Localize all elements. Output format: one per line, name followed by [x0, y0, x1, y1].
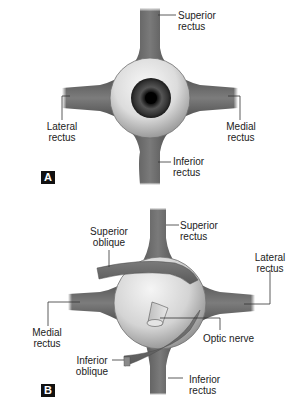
lateral-rectus-muscle-a [62, 80, 114, 116]
label-line: rectus [28, 338, 66, 349]
label-line: Superior [178, 10, 216, 21]
label-line: Inferior [173, 156, 204, 167]
figure-svg [0, 0, 300, 412]
superior-rectus-muscle-a [132, 8, 168, 65]
label-a-medial-rectus: Medial rectus [222, 121, 260, 143]
label-line: rectus [180, 231, 218, 242]
label-b-inferior-rectus: Inferior rectus [189, 374, 220, 396]
label-b-superior-rectus: Superior rectus [180, 220, 218, 242]
label-line: Medial [222, 121, 260, 132]
label-b-inferior-oblique: Inferior oblique [72, 355, 112, 377]
label-line: oblique [88, 237, 130, 248]
label-line: Medial [28, 327, 66, 338]
label-b-optic-nerve: Optic nerve [203, 333, 254, 344]
label-b-medial-rectus: Medial rectus [28, 327, 66, 349]
label-line: Superior [88, 226, 130, 237]
panel-b-badge: B [41, 384, 55, 397]
label-line: rectus [42, 132, 82, 143]
label-line: rectus [222, 132, 260, 143]
extraocular-muscles-figure: Superior rectus Lateral rectus Medial re… [0, 0, 300, 412]
label-a-superior-rectus: Superior rectus [178, 10, 216, 32]
label-line: oblique [72, 366, 112, 377]
inferior-rectus-muscle-a [132, 133, 168, 185]
label-line: Optic nerve [203, 333, 254, 344]
label-b-lateral-rectus: Lateral rectus [252, 252, 288, 274]
lateral-rectus-muscle-b [200, 284, 255, 322]
label-line: Lateral [42, 121, 82, 132]
medial-rectus-muscle-a [186, 80, 238, 116]
label-b-superior-oblique: Superior oblique [88, 226, 130, 248]
panel-a [62, 8, 240, 185]
label-line: Inferior [189, 374, 220, 385]
label-line: rectus [252, 263, 288, 274]
pupil-a [145, 92, 157, 104]
medial-rectus-muscle-b [68, 286, 118, 320]
label-line: Lateral [252, 252, 288, 263]
label-line: rectus [189, 385, 220, 396]
label-line: Superior [180, 220, 218, 231]
label-line: rectus [173, 167, 204, 178]
label-line: Inferior [72, 355, 112, 366]
label-a-lateral-rectus: Lateral rectus [42, 121, 82, 143]
label-line: rectus [178, 21, 216, 32]
panel-a-badge: A [41, 171, 55, 184]
label-a-inferior-rectus: Inferior rectus [173, 156, 204, 178]
